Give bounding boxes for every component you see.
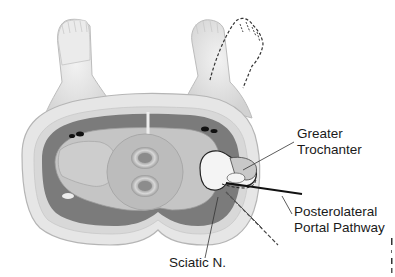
cropped-edge-marks [390,238,395,277]
portal-pathway-leader [282,196,292,214]
anatomical-diagram: Greater Trochanter Posterolateral Portal… [0,0,395,277]
sciatic-nerve-label: Sciatic N. [169,255,226,271]
posterolateral-portal-label: Posterolateral Portal Pathway [294,204,385,236]
greater-trochanter-label: Greater Trochanter [297,126,362,158]
